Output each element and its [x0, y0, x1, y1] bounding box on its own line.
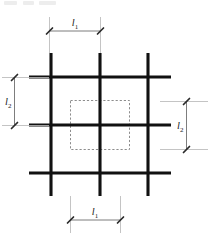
- dimension-label-left-subscript: 2: [8, 102, 12, 110]
- dimension-label-right-subscript: 2: [180, 126, 184, 134]
- dimension-top-l1: l1: [47, 17, 104, 53]
- dimension-label-bottom-subscript: 1: [95, 212, 99, 220]
- dimension-label-top-subscript: 1: [75, 23, 79, 31]
- dimension-label-top: l1: [72, 17, 79, 31]
- grid-diagram: l1 l1 l2: [0, 0, 210, 243]
- dimension-label-bottom: l1: [92, 206, 99, 220]
- dimension-left-l2: l2: [2, 75, 49, 129]
- dimension-label-right: l2: [177, 120, 184, 134]
- dimension-bottom-l1: l1: [68, 196, 124, 233]
- figure-container: l1 l1 l2: [0, 0, 210, 243]
- dimension-label-left: l2: [5, 96, 12, 110]
